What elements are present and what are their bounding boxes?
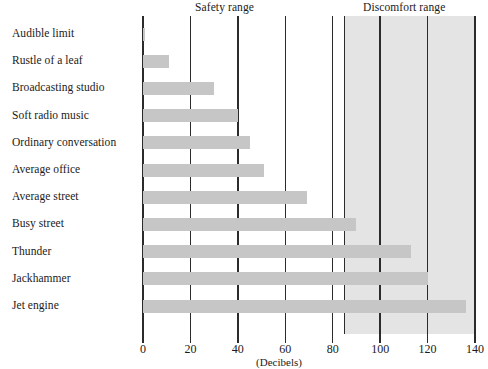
x-axis-title-text: (Decibels) (256, 356, 302, 368)
x-axis-title: (Decibels) (0, 356, 488, 368)
decibel-bar-chart: Safety range Discomfort range Audible li… (0, 0, 488, 369)
x-tick-label: 80 (327, 342, 339, 357)
x-tick-label: 120 (419, 342, 437, 357)
x-axis: 020406080100120140 (0, 0, 488, 369)
x-tick-label: 140 (466, 342, 484, 357)
x-tick-label: 20 (184, 342, 196, 357)
x-tick-label: 0 (140, 342, 146, 357)
x-tick-label: 60 (279, 342, 291, 357)
x-tick-label: 40 (232, 342, 244, 357)
x-tick-label: 100 (371, 342, 389, 357)
